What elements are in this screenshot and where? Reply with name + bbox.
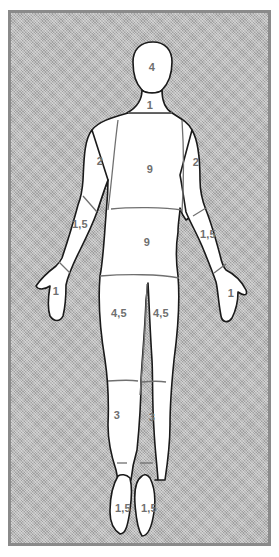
region-label-right-thigh: 4,5	[153, 307, 169, 319]
region-label-left-hand: 1	[53, 285, 59, 297]
region-label-left-foot: 1,5	[115, 502, 131, 514]
region-label-right-upper-arm: 2	[193, 156, 199, 168]
region-label-right-forearm: 1,5	[200, 228, 216, 240]
region-label-neck: 1	[147, 99, 153, 111]
body-outline-figure	[0, 0, 279, 557]
region-label-left-lower-leg: 3	[114, 409, 120, 421]
region-label-right-foot: 1,5	[141, 502, 157, 514]
region-label-left-forearm: 1,5	[72, 218, 88, 230]
region-label-left-thigh: 4,5	[111, 307, 127, 319]
region-label-left-upper-arm: 2	[97, 155, 103, 167]
region-label-right-lower-leg: 3	[149, 411, 155, 423]
region-label-upper-back: 9	[147, 163, 153, 175]
region-label-lower-back: 9	[144, 236, 150, 248]
region-label-head: 4	[149, 61, 155, 73]
region-label-right-hand: 1	[228, 287, 234, 299]
right-arm-outline	[180, 130, 247, 322]
